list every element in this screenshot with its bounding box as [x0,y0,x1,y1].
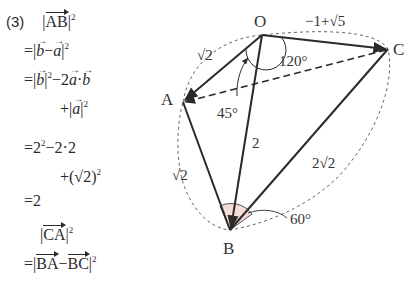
point-c-label: C [393,40,404,59]
edge-oc-label: −1+√5 [305,13,345,29]
edge-ab-label: √2 [172,167,188,183]
point-b-label: B [223,239,234,258]
edge-oa-label: √2 [197,47,213,63]
edge-ob-label: 2 [252,135,260,151]
point-a-label: A [161,90,174,109]
vector-diagram: O A B C √2 −1+√5 2 √2 2√2 120° 45° 60° [0,0,408,281]
point-o-label: O [254,12,266,31]
angle-60-leader [248,210,287,218]
edge-oa [185,35,262,100]
angle-aoc-label: 120° [279,53,308,69]
angle-45-pointer [237,58,248,96]
angle-aob-label: 45° [217,105,238,121]
edge-bc-label: 2√2 [312,155,335,171]
angle-abc-label: 60° [290,211,311,227]
edge-ab [183,102,230,230]
